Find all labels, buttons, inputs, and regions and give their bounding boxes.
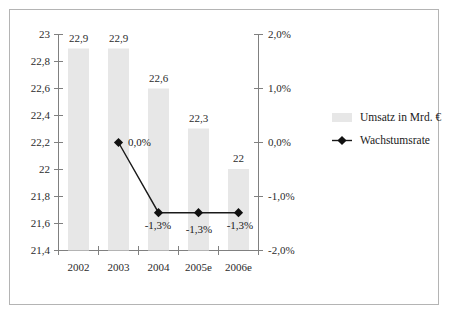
growth-rate-line: [119, 143, 239, 213]
diamond-marker-icon: [337, 136, 346, 145]
bar-swatch-icon: [332, 113, 352, 122]
bar-data-label: 22: [233, 152, 244, 164]
legend-item-wachstumsrate[interactable]: Wachstumsrate: [332, 134, 430, 146]
legend-item-umsatz[interactable]: Umsatz in Mrd. €: [332, 111, 441, 123]
chart-legend: Umsatz in Mrd. € Wachstumsrate: [332, 111, 441, 146]
right-axis-tick-label: 0,0%: [268, 136, 291, 148]
bar-data-label: 22,6: [149, 72, 169, 84]
right-axis-tick-label: -1,0%: [268, 190, 295, 202]
left-axis-tick-label: 23: [39, 28, 51, 40]
x-axis-category-label: 2004: [148, 261, 171, 273]
left-axis-tick-label: 22,8: [31, 55, 51, 67]
x-axis-category-label: 2006e: [225, 261, 252, 273]
line-data-label: -1,3%: [186, 223, 213, 235]
line-data-label: -1,3%: [145, 219, 172, 231]
bar-data-label: 22,9: [109, 32, 129, 44]
left-axis-tick-label: 22,2: [31, 136, 50, 148]
right-axis-tick-label: 1,0%: [268, 82, 291, 94]
chart-canvas: 23 22,8 22,6 22,4 22,2 22 21,8 21,6 21,4…: [0, 0, 450, 316]
left-axis-tick-label: 21,8: [31, 190, 51, 202]
right-axis-tick-label: 2,0%: [268, 28, 291, 40]
x-axis-category-label: 2002: [68, 261, 90, 273]
legend-label-umsatz: Umsatz in Mrd. €: [360, 111, 441, 123]
line-data-label: 0,0%: [128, 136, 151, 148]
legend-label-wachstumsrate: Wachstumsrate: [360, 134, 430, 146]
right-axis: 2,0% 1,0% 0,0% -1,0% -2,0%: [254, 28, 295, 256]
right-axis-tick-label: -2,0%: [268, 244, 295, 256]
x-axis-category-label: 2005e: [185, 261, 212, 273]
left-axis-tick-label: 22,4: [31, 109, 51, 121]
left-axis-tick-label: 22,6: [31, 82, 51, 94]
x-axis-category-label: 2003: [108, 261, 131, 273]
left-axis: 23 22,8 22,6 22,4 22,2 22 21,8 21,6 21,4: [31, 28, 63, 256]
left-axis-tick-label: 22: [39, 163, 50, 175]
left-axis-tick-label: 21,6: [31, 217, 51, 229]
left-axis-tick-label: 21,4: [31, 244, 51, 256]
bar-data-label: 22,9: [69, 32, 89, 44]
line-series-wachstumsrate: [114, 138, 243, 217]
line-data-label: -1,3%: [227, 219, 254, 231]
bar-data-label: 22,3: [189, 112, 209, 124]
bar-2002[interactable]: [68, 49, 89, 251]
bar-2003[interactable]: [108, 49, 129, 251]
